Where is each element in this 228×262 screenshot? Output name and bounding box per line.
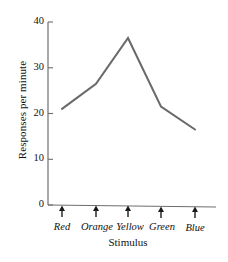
x-axis-arrow-ticks [59,206,198,219]
y-axis-ticks [48,22,53,205]
y-tick-label-0: 0 [22,198,44,209]
x-tick-label-blue: Blue [185,222,204,233]
x-tick-label-orange: Orange [81,221,113,232]
x-tick-arrow-orange [93,206,99,218]
x-tick-label-yellow: Yellow [116,221,144,232]
y-tick-label-40: 40 [22,15,44,26]
data-line-responses [62,38,195,130]
x-tick-arrow-red [59,206,65,218]
x-tick-label-red: Red [54,221,70,232]
y-axis-title: Responses per minute [16,40,28,180]
x-axis-line [48,205,216,207]
chart-container: 40 30 20 10 0 Red Orange Yellow Green Bl… [0,0,228,262]
x-tick-arrow-blue [192,207,198,219]
x-tick-label-green: Green [149,221,175,232]
x-axis-title: Stimulus [58,236,198,248]
x-tick-arrow-yellow [125,206,131,218]
x-tick-arrow-green [158,207,164,219]
